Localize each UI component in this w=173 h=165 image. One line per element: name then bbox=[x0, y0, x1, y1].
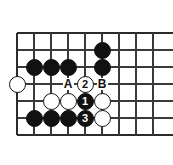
stone-move-number: 2 bbox=[82, 79, 88, 90]
stone-black bbox=[26, 59, 43, 76]
stone-white-move-2: 2 bbox=[77, 76, 94, 93]
stone-black bbox=[26, 110, 43, 127]
stone-black-move-1: 1 bbox=[77, 93, 94, 110]
stone-white bbox=[60, 93, 77, 110]
stone-move-number: 1 bbox=[82, 96, 88, 107]
point-marker-b: B bbox=[97, 78, 108, 90]
stone-black bbox=[60, 59, 77, 76]
stone-black bbox=[94, 42, 111, 59]
stone-white bbox=[94, 110, 111, 127]
stone-black bbox=[60, 110, 77, 127]
go-board-diagram: 213 AB bbox=[0, 0, 173, 165]
stone-move-number: 3 bbox=[82, 113, 88, 124]
stone-black bbox=[94, 59, 111, 76]
stone-white bbox=[9, 76, 26, 93]
stone-white bbox=[94, 93, 111, 110]
stone-white bbox=[43, 93, 60, 110]
point-marker-a: A bbox=[63, 78, 74, 90]
stone-black-move-3: 3 bbox=[77, 110, 94, 127]
stone-black bbox=[43, 59, 60, 76]
stone-black bbox=[43, 110, 60, 127]
